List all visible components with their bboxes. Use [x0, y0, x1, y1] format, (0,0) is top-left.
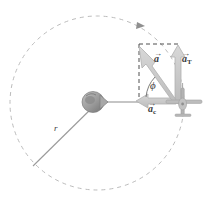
vector-accent-a-t: →	[182, 50, 186, 58]
label-tangential-acceleration: → a T	[182, 54, 192, 66]
motion-direction-arrow-icon	[136, 22, 145, 29]
label-resultant-acceleration: → a	[154, 54, 159, 64]
label-a-t-subscript: T	[187, 58, 192, 66]
label-a-c-subscript: c	[153, 108, 156, 116]
circular-motion-acceleration-figure: → a → a T → a c ϕ r	[0, 0, 206, 197]
vector-accent-a-c: →	[148, 100, 152, 108]
label-centripetal-acceleration: → a c	[148, 104, 156, 116]
diagram-canvas	[0, 0, 206, 197]
model-airplane	[166, 83, 202, 116]
radius-line	[33, 104, 96, 166]
label-radius-r: r	[54, 124, 58, 133]
pivot-hub	[82, 92, 108, 113]
label-angle-phi: ϕ	[150, 80, 156, 91]
vector-accent-a: →	[154, 50, 158, 58]
